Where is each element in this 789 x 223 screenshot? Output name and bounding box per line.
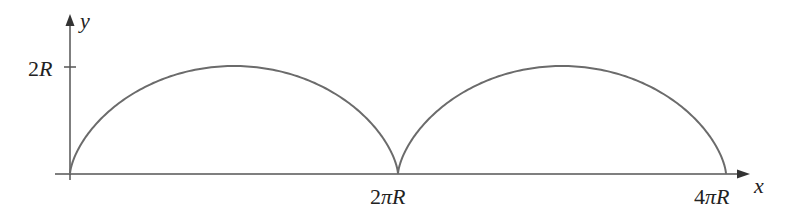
x-tick-label-2piR: 2πR [370, 184, 406, 209]
x-tick-label-4piR: 4πR [694, 184, 730, 209]
x-axis-arrow-icon [737, 170, 750, 179]
cycloid-curve [70, 66, 726, 174]
y-axis-label: y [78, 8, 90, 33]
x-axis-label: x [753, 173, 764, 198]
cycloid-diagram: y 2R x 2πR 4πR [0, 0, 789, 223]
y-axis-arrow-icon [66, 14, 75, 26]
y-tick-label-2R: 2R [28, 56, 53, 81]
